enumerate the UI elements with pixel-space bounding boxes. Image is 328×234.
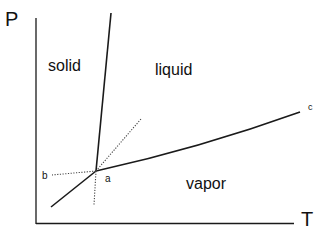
point-label-a: a	[105, 174, 111, 184]
y-axis-label: P	[5, 9, 18, 29]
metastable-extension-down	[94, 171, 96, 205]
point-label-c: c	[308, 103, 313, 112]
point-label-b: b	[42, 171, 48, 181]
vaporization-curve	[96, 112, 300, 171]
region-label-liquid: liquid	[155, 62, 192, 78]
region-label-vapor: vapor	[186, 176, 226, 192]
metastable-extension-up	[96, 119, 141, 171]
sublimation-curve	[51, 171, 96, 207]
region-label-solid: solid	[48, 58, 81, 74]
metastable-extension-b	[52, 171, 96, 175]
melting-curve	[96, 13, 111, 171]
x-axis-label: T	[301, 209, 313, 229]
phase-diagram-canvas	[0, 0, 328, 234]
